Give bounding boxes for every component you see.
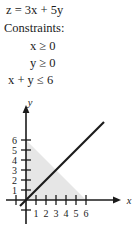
constraint-sum-bound: x + y ≤ 6 [8, 74, 53, 87]
y-tick-label-3: 3 [12, 165, 17, 176]
x-tick-label-5: 5 [74, 208, 79, 219]
x-tick-label-6: 6 [84, 208, 89, 219]
x-axis-arrow-icon [113, 197, 121, 204]
y-tick-label-4: 4 [12, 155, 17, 166]
constraints-label: Constraints: [4, 22, 64, 35]
y-axis-label: y [27, 97, 33, 108]
constraint-x-nonnegative: x ≥ 0 [30, 40, 56, 53]
x-tick-label-2: 2 [44, 208, 49, 219]
x-axis-label: x [126, 195, 132, 206]
y-tick-label-6: 6 [12, 135, 17, 146]
graph-svg: 1 2 3 4 5 6 1 2 3 4 5 6 y x [0, 96, 138, 234]
objective-function: z = 3x + 5y [6, 4, 63, 17]
linear-programming-figure: z = 3x + 5y Constraints: x ≥ 0 y ≥ 0 x +… [0, 0, 138, 234]
y-tick-label-5: 5 [12, 145, 17, 156]
y-tick-label-1: 1 [12, 185, 17, 196]
x-tick-label-4: 4 [64, 208, 69, 219]
constraint-y-nonnegative: y ≥ 0 [30, 57, 56, 70]
y-tick-label-2: 2 [12, 175, 17, 186]
feasible-region-graph: 1 2 3 4 5 6 1 2 3 4 5 6 y x [0, 96, 138, 234]
x-tick-label-3: 3 [54, 208, 59, 219]
x-tick-label-1: 1 [34, 208, 39, 219]
